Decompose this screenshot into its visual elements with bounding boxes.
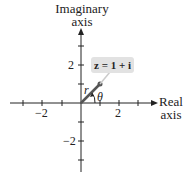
x-tick-label-neg2: −2 xyxy=(35,107,48,119)
y-tick-label-2: 2 xyxy=(68,59,74,71)
point-label-callout: z = 1 + i xyxy=(91,57,134,73)
imaginary-axis-label: Imaginary axis xyxy=(52,2,112,28)
modulus-label: r xyxy=(84,84,89,96)
callout-leader xyxy=(100,72,110,84)
imaginary-axis-arrow-icon xyxy=(78,28,84,35)
y-tick-label-neg2: −2 xyxy=(63,135,76,147)
x-tick-label-2: 2 xyxy=(115,107,121,119)
angle-label: θ xyxy=(97,91,103,103)
real-axis-label: Real axis xyxy=(155,95,187,121)
